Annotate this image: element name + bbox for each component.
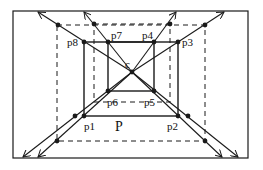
- dot-proj-p3: [203, 23, 208, 28]
- dot-proj-p2: [203, 139, 208, 144]
- dot-proj-p4: [168, 22, 173, 27]
- dot-p7: [106, 40, 111, 45]
- dot-proj-p5: [186, 114, 191, 119]
- label-p3: p3: [182, 36, 194, 48]
- label-center-c: c: [125, 58, 130, 70]
- projection-rays: [23, 12, 238, 157]
- label-p2: p2: [167, 120, 178, 132]
- label-p8: p8: [67, 36, 79, 48]
- dot-p3: [176, 40, 181, 45]
- label-p6: p6: [107, 96, 119, 108]
- label-p7: p7: [111, 29, 123, 41]
- dot-proj-p6: [73, 114, 78, 119]
- dot-p2: [176, 114, 181, 119]
- solid-box-p: [84, 42, 178, 116]
- dot-p8: [82, 40, 87, 45]
- label-polygon-p: P: [115, 119, 123, 134]
- dot-proj-p8: [56, 23, 61, 28]
- perspective-projection-diagram: p8 p7 p4 p3 c p6 p5 p1 p2 P: [0, 0, 263, 170]
- outer-frame: [13, 11, 248, 158]
- ray-p5: [132, 72, 238, 157]
- dot-p6: [106, 89, 111, 94]
- dot-proj-p7: [92, 22, 97, 27]
- ray-p6: [23, 72, 132, 157]
- label-p5: p5: [144, 96, 156, 108]
- dot-p1: [82, 114, 87, 119]
- label-p4: p4: [142, 29, 154, 41]
- dot-p5: [152, 89, 157, 94]
- box-front-face: [84, 42, 178, 116]
- label-p1: p1: [84, 120, 95, 132]
- dot-center: [130, 70, 135, 75]
- dot-proj-p1: [55, 139, 60, 144]
